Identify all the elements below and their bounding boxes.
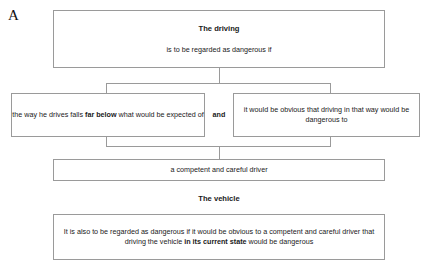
box-condition-falls-below-text: the way he drives falls far below what w… — [12, 110, 203, 120]
box-the-driving: The driving is to be regarded as dangero… — [53, 10, 385, 68]
vehicle-part2: would be dangerous — [247, 237, 314, 246]
conjunction-and-label: and — [213, 110, 226, 120]
condition-left-part1: the way he drives falls — [12, 110, 85, 119]
connector-merge-stem — [219, 146, 220, 159]
figure-label: A — [8, 8, 19, 23]
box-competent-careful-driver: a competent and careful driver — [53, 159, 385, 181]
box-the-vehicle: It is also to be regarded as dangerous i… — [53, 214, 385, 260]
condition-left-part2: what would be expected of — [117, 110, 204, 119]
box-condition-falls-below: the way he drives falls far below what w… — [11, 93, 205, 137]
connector-split-bar — [106, 83, 331, 84]
box-the-vehicle-text: It is also to be regarded as dangerous i… — [54, 227, 384, 247]
connector-split-right — [330, 83, 331, 93]
box-the-driving-subtitle: is to be regarded as dangerous if — [166, 45, 271, 55]
box-condition-obvious: it would be obvious that driving in that… — [233, 93, 420, 137]
flowchart-canvas: A The driving is to be regarded as dange… — [0, 0, 432, 266]
conjunction-and: and — [205, 93, 233, 137]
connector-top-stem — [219, 68, 220, 83]
section-heading-the-vehicle: The vehicle — [53, 194, 385, 204]
box-condition-obvious-text: it would be obvious that driving in that… — [234, 105, 419, 125]
condition-left-emphasis: far below — [85, 110, 117, 119]
box-the-driving-heading: The driving — [199, 24, 240, 34]
vehicle-emphasis: in its current state — [184, 237, 246, 246]
connector-split-left — [106, 83, 107, 93]
box-competent-careful-driver-text: a competent and careful driver — [170, 165, 267, 175]
